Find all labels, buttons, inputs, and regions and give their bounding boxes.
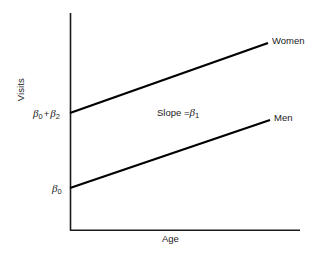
slope-annotation-prefix: Slope = [157, 107, 190, 118]
y-axis-label: Visits [16, 87, 26, 101]
slope-annotation: Slope =β1 [157, 106, 199, 120]
series-label-men: Men [274, 113, 292, 123]
x-axis-label: Age [162, 234, 179, 244]
beta-subscript-zero: 0 [57, 187, 61, 196]
y-axis-label-text: Visits [15, 78, 26, 101]
series-label-men-text: Men [274, 112, 292, 123]
intercept-label-women: β0+β2 [33, 107, 60, 121]
x-axis-label-text: Age [162, 233, 179, 244]
intercept-label-men: β0 [52, 182, 62, 196]
beta-subscript-two: 2 [56, 112, 60, 121]
series-label-women: Women [272, 36, 305, 46]
series-label-women-text: Women [272, 35, 305, 46]
beta-subscript-one: 1 [195, 111, 199, 120]
regression-diagram-figure: Visits Age β0+β2 β0 Slope =β1 Women Men [0, 0, 321, 263]
